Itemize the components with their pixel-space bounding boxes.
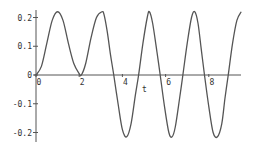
x-tick-label: 6 [166,78,171,87]
x-tick-label: 4 [123,78,128,87]
y-tick-label: -0.1 [13,100,32,109]
x-tick-label: 8 [209,78,214,87]
x-tick-label: 0 [37,78,42,87]
line-chart: 0.20.10-0.1-0.2 02468 t [0,0,259,152]
y-tick-label: 0.1 [18,42,33,51]
x-tick-label: 2 [80,78,85,87]
y-tick-label: 0 [27,71,32,80]
x-axis-label: t [142,85,147,94]
y-tick-label: 0.2 [18,14,33,23]
data-line [36,11,241,137]
y-tick-label: -0.2 [13,129,32,138]
y-axis: 0.20.10-0.1-0.2 [13,10,38,142]
